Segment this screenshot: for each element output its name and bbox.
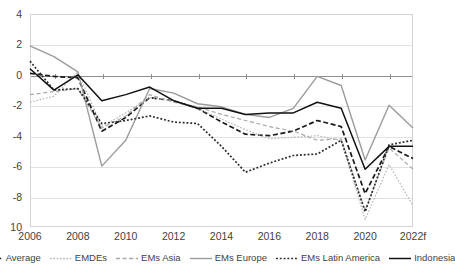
zero-axis-tick	[199, 74, 200, 79]
zero-axis-tick	[294, 74, 295, 79]
gridline	[31, 106, 412, 107]
legend-swatch-dotted	[276, 254, 298, 263]
zero-axis-line	[31, 76, 412, 77]
y-tick-label: -8	[0, 192, 22, 202]
legend-item-ems-europe[interactable]: EMs Europe	[190, 253, 267, 263]
y-tick-label: -2	[0, 100, 22, 110]
legend-label: Average	[6, 253, 41, 263]
legend-swatch-solid	[389, 254, 411, 263]
legend-label: EMs Asia	[141, 253, 181, 263]
x-tick-label: 2012	[151, 231, 197, 242]
legend-item-emdes[interactable]: EMDEs	[50, 253, 107, 263]
plot-area	[30, 14, 413, 227]
legend-item-indonesia[interactable]: Indonesia	[389, 253, 455, 263]
legend-item-ems-asia[interactable]: EMs Asia	[116, 253, 181, 263]
y-tick-label: -4	[0, 131, 22, 141]
zero-axis-tick	[103, 74, 104, 79]
gridline	[31, 45, 412, 46]
legend-label: Indonesia	[414, 253, 455, 263]
gridline	[31, 137, 412, 138]
x-tick-label: 2022f	[390, 231, 436, 242]
zero-axis-tick	[246, 74, 247, 79]
legend-label: EMs Latin America	[301, 253, 380, 263]
x-tick-label: 2010	[103, 231, 149, 242]
x-tick-label: 2020	[342, 231, 388, 242]
legend-swatch-dashed-light	[116, 254, 138, 263]
zero-axis-tick	[55, 74, 56, 79]
x-tick-label: 2014	[199, 231, 245, 242]
legend-swatch-dashed	[0, 254, 3, 263]
zero-axis-tick	[390, 74, 391, 79]
x-tick-label: 2016	[246, 231, 292, 242]
zero-axis-tick	[342, 74, 343, 79]
legend-swatch-solid-light	[190, 254, 212, 263]
legend-label: EMDEs	[75, 253, 107, 263]
y-tick-label: 2	[0, 39, 22, 49]
legend-label: EMs Europe	[215, 253, 267, 263]
y-tick-label: 4	[0, 9, 22, 19]
legend-item-ems-latin-america[interactable]: EMs Latin America	[276, 253, 380, 263]
legend-swatch-dotted-light	[50, 254, 72, 263]
y-tick-label: -6	[0, 161, 22, 171]
gridline	[31, 198, 412, 199]
x-tick-label: 2008	[55, 231, 101, 242]
chart-legend: AverageEMDEsEMs AsiaEMs EuropeEMs Latin …	[0, 250, 436, 266]
legend-item-average[interactable]: Average	[0, 253, 41, 263]
y-tick-label: 0	[0, 70, 22, 80]
x-tick-label: 2018	[294, 231, 340, 242]
zero-axis-tick	[151, 74, 152, 79]
x-tick-label: 2006	[7, 231, 53, 242]
gridline	[31, 167, 412, 168]
